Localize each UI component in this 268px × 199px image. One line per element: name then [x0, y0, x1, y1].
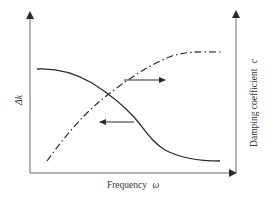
right-axis-label: Damping coefficient c — [249, 58, 259, 147]
x-axis — [30, 169, 237, 177]
left-y-axis — [26, 11, 34, 173]
dual-axis-line-diagram: Δk Damping coefficient c Frequency ω — [0, 0, 268, 199]
right-axis-label-symbol: c — [249, 58, 259, 63]
right-y-axis — [232, 10, 240, 173]
delta-k-curve — [37, 69, 220, 161]
left-axis-arrow-icon — [26, 11, 34, 19]
left-axis-label: Δk — [14, 94, 24, 106]
right-axis-label-text: Damping coefficient — [249, 68, 259, 147]
x-axis-label-symbol: ω — [152, 180, 159, 190]
damping-coefficient-curve — [47, 52, 222, 161]
diagram-canvas: Δk Damping coefficient c Frequency ω — [0, 0, 268, 199]
x-axis-label-text: Frequency — [107, 180, 147, 190]
x-axis-label: Frequency ω — [107, 180, 159, 190]
right-axis-arrow-icon — [232, 10, 240, 18]
